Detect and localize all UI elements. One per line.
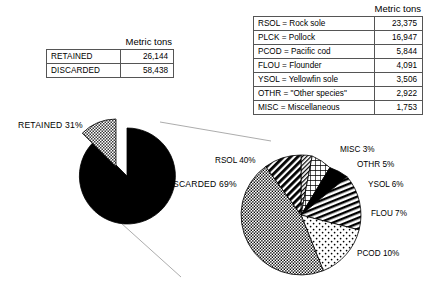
- callout-line-lower: [121, 223, 181, 277]
- figure-canvas: Metric tons RETAINED 26,144 DISCARDED 58…: [0, 0, 428, 288]
- pie-label-rsol: RSOL 40%: [215, 156, 256, 165]
- pie-label-misc: MISC 3%: [340, 145, 375, 154]
- catch-disposition-pie: RETAINED 31% DISCARDED 69%: [18, 119, 237, 224]
- pie-label-othr: OTHR 5%: [357, 160, 394, 169]
- pie-label-ysol: YSOL 6%: [368, 180, 404, 189]
- pie-label-discarded: DISCARDED 69%: [164, 179, 237, 189]
- discard-composition-pie: RSOL 40% MISC 3% OTHR 5% YSOL 6% FLOU 7%…: [215, 145, 407, 275]
- callout-line-upper: [160, 122, 271, 141]
- pie-charts-svg: RETAINED 31% DISCARDED 69% RSOL 40% MISC…: [0, 0, 428, 288]
- pie-label-pcod: PCOD 10%: [357, 249, 399, 258]
- pie-label-retained: RETAINED 31%: [18, 120, 83, 130]
- pie-label-flou: FLOU 7%: [371, 209, 407, 218]
